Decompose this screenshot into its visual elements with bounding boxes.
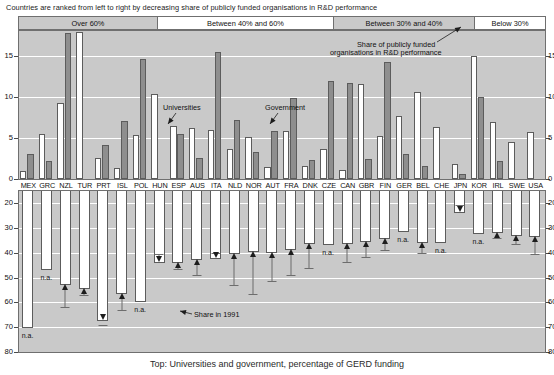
bar-universities-ISL <box>114 168 120 179</box>
bar-government-CZE <box>328 81 334 179</box>
y-axis-label-bottom-left-70: 70 <box>0 323 13 331</box>
bar-universities-USA <box>527 132 533 179</box>
bar-universities-ESP <box>170 126 176 179</box>
marker-share-1991-NZL <box>60 191 71 352</box>
y-tick-bottom-L-70 <box>14 327 18 328</box>
bar-universities-KOR <box>471 56 477 179</box>
marker-share-1991-ISL <box>116 191 127 352</box>
annotation-share-1991: Share in 1991 <box>194 310 239 319</box>
bar-government-GRC <box>46 161 52 179</box>
y-tick-top-L-15 <box>14 56 18 57</box>
bar-universities-FRA <box>283 131 289 179</box>
bar-universities-NLD <box>227 149 233 179</box>
na-label-KOR: n.a. <box>467 238 489 245</box>
bar-government-NLD <box>234 120 240 179</box>
bar-universities-AUS <box>189 128 195 179</box>
y-axis-label-bottom-right-70: 70 <box>548 323 554 331</box>
y-tick-bottom-L-50 <box>14 278 18 279</box>
bar-universities-CZE <box>320 149 326 179</box>
bar-government-GBR <box>365 159 371 179</box>
marker-share-1991-GBR <box>360 191 371 352</box>
gridline <box>19 97 545 98</box>
marker-share-1991-AUT <box>266 191 277 352</box>
marker-share-1991-USA <box>529 191 540 352</box>
y-axis-label-top-right-15: 15 <box>548 52 554 60</box>
bar-universities-GRC <box>39 134 45 179</box>
na-label-CHE: n.a. <box>430 247 452 254</box>
chart-page: Countries are ranked from left to right … <box>0 0 554 375</box>
bar-universities-JPN <box>452 164 458 179</box>
bar-government-POL <box>140 59 146 179</box>
leader-universities <box>162 107 182 130</box>
y-axis-label-bottom-left-80: 80 <box>0 348 13 356</box>
bar-government-AUS <box>196 158 202 179</box>
bar-government-PRT <box>102 145 108 179</box>
na-label-GRC: n.a. <box>35 274 57 281</box>
bar-universities-DNK <box>302 166 308 179</box>
y-tick-top-L-0 <box>14 179 18 180</box>
bar-share-GER <box>398 190 409 232</box>
bottom-chart-panel: n.a.n.a.n.a.n.a.n.a.n.a.n.a. <box>18 190 546 353</box>
y-axis-label-bottom-right-60: 60 <box>548 298 554 306</box>
y-axis-label-bottom-right-80: 80 <box>548 348 554 356</box>
bar-government-GER <box>403 154 409 179</box>
bar-share-GRC <box>41 190 52 270</box>
na-label-CZE: n.a. <box>317 249 339 256</box>
marker-share-1991-PRT <box>97 191 108 352</box>
bar-share-KOR <box>473 190 484 234</box>
y-axis-label-top-left-10: 10 <box>0 93 13 101</box>
bar-share-MEX <box>22 190 33 328</box>
bar-universities-GER <box>396 116 402 179</box>
bar-universities-SWE <box>508 142 514 179</box>
leader-share-1991 <box>174 305 198 320</box>
bar-government-ITA <box>215 52 221 179</box>
bar-universities-CAN <box>339 170 345 179</box>
marker-share-1991-NLD <box>229 191 240 352</box>
y-tick-bottom-L-30 <box>14 228 18 229</box>
marker-share-1991-FIN <box>379 191 390 352</box>
bar-government-IRL <box>497 161 503 179</box>
na-label-GER: n.a. <box>392 236 414 243</box>
bar-universities-CHE <box>433 127 439 179</box>
marker-share-1991-IRL <box>492 191 503 352</box>
y-axis-label-top-right-10: 10 <box>548 93 554 101</box>
bar-universities-HUN <box>151 94 157 179</box>
annotation-share-funded-line2: organisations in R&D performance <box>330 48 442 57</box>
bar-universities-FIN <box>377 136 383 179</box>
y-tick-top-L-10 <box>14 97 18 98</box>
marker-share-1991-ITA <box>210 191 221 352</box>
y-tick-top-L-5 <box>14 138 18 139</box>
bar-government-CAN <box>347 83 353 179</box>
gridline <box>19 352 545 353</box>
y-axis-label-top-right-0: 0 <box>548 175 554 183</box>
marker-share-1991-FRA <box>285 191 296 352</box>
marker-share-1991-JPN <box>454 191 465 352</box>
bar-universities-NZL <box>57 103 63 179</box>
country-label-USA: USA <box>525 181 547 190</box>
bar-government-NZL <box>65 33 71 179</box>
bar-share-CZE <box>323 190 334 245</box>
marker-share-1991-DNK <box>304 191 315 352</box>
marker-share-1991-HUN <box>154 191 165 352</box>
bar-government-KOR <box>478 97 484 179</box>
y-axis-label-top-left-15: 15 <box>0 52 13 60</box>
bar-universities-BEL <box>414 92 420 179</box>
marker-share-1991-BEL <box>417 191 428 352</box>
y-axis-label-bottom-left-30: 30 <box>0 224 13 232</box>
y-axis-label-bottom-right-40: 40 <box>548 249 554 257</box>
leader-government <box>264 107 284 130</box>
na-label-POL: n.a. <box>129 306 151 313</box>
bar-government-NOR <box>253 152 259 179</box>
y-axis-label-bottom-left-60: 60 <box>0 298 13 306</box>
bar-share-POL <box>135 190 146 302</box>
bar-government-BEL <box>422 166 428 179</box>
bar-universities-ITA <box>208 130 214 179</box>
marker-share-1991-AUS <box>191 191 202 352</box>
marker-share-1991-TUR <box>79 191 90 352</box>
y-axis-label-bottom-left-50: 50 <box>0 274 13 282</box>
y-axis-label-bottom-right-20: 20 <box>548 199 554 207</box>
y-tick-bottom-L-60 <box>14 302 18 303</box>
bar-government-FIN <box>384 62 390 179</box>
category-label-0: Over 60% <box>19 17 158 29</box>
y-tick-bottom-L-20 <box>14 203 18 204</box>
